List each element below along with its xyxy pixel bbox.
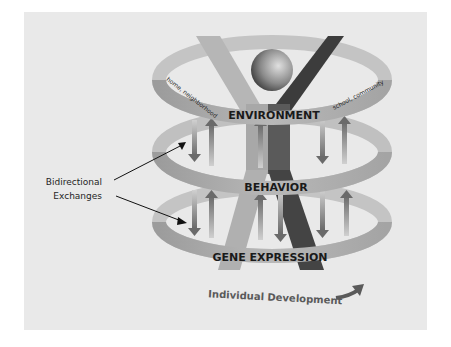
arrow-up-icon bbox=[338, 116, 351, 164]
arrow-up-icon bbox=[254, 192, 267, 240]
level-label-environment: ENVIRONMENT bbox=[228, 109, 320, 122]
level-label-behavior: BEHAVIOR bbox=[244, 181, 308, 194]
development-diagram: ENVIRONMENT BEHAVIOR GENE EXPRESSION hom… bbox=[0, 0, 451, 347]
level-label-gene-expression: GENE EXPRESSION bbox=[212, 251, 327, 264]
annotation-line-2: Exchanges bbox=[40, 189, 102, 203]
curved-arrow-icon bbox=[336, 284, 364, 298]
arrow-up-icon bbox=[340, 190, 353, 236]
annotation-pointer-icon bbox=[114, 142, 187, 225]
arrow-up-icon bbox=[205, 190, 218, 238]
arrow-up-icon bbox=[205, 118, 218, 166]
footer-individual-development: Individual Development bbox=[208, 288, 343, 306]
annotation-bidirectional-exchanges: Bidirectional Exchanges bbox=[40, 175, 102, 203]
annotation-line-1: Bidirectional bbox=[40, 175, 102, 189]
